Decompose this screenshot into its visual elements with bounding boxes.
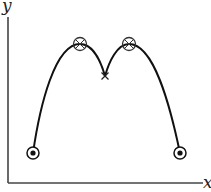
end-point-marker [174, 147, 186, 159]
start-point-marker [27, 147, 39, 159]
x-axis-label: x [203, 174, 211, 191]
curve-left-arch [33, 44, 105, 153]
y-axis-label: y [2, 0, 12, 14]
diagram: y x [0, 0, 211, 192]
plot-canvas [0, 0, 211, 192]
curve-right-arch [105, 44, 180, 153]
